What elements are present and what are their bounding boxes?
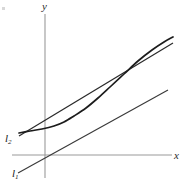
line-l2-label: l2 (5, 133, 12, 144)
line-l2-label-subscript: 2 (8, 138, 12, 146)
line-l1-label: l1 (12, 168, 19, 179)
y-axis-label: y (42, 1, 47, 12)
x-axis-label: x (174, 150, 179, 161)
line-l1-label-subscript: 1 (15, 173, 19, 181)
figure-container: y x l1 l2 (0, 0, 186, 184)
tangent-lines-chart (0, 0, 186, 184)
line-l2 (19, 43, 173, 136)
function-curve (19, 37, 173, 133)
